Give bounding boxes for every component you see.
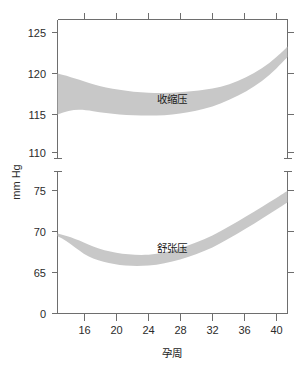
x-axis-title: 孕周 bbox=[162, 347, 182, 359]
diastolic-ytick-70: 70 bbox=[34, 226, 46, 238]
xtick-20: 20 bbox=[110, 324, 122, 336]
chart-background bbox=[0, 0, 308, 367]
blood-pressure-chart: 125 120 115 110 收缩压 bbox=[0, 0, 308, 367]
xtick-16: 16 bbox=[78, 324, 90, 336]
diastolic-ytick-75: 75 bbox=[34, 185, 46, 197]
y-axis-title: mm Hg bbox=[10, 164, 22, 199]
systolic-ytick-120: 120 bbox=[28, 68, 46, 80]
xtick-28: 28 bbox=[174, 324, 186, 336]
xtick-32: 32 bbox=[206, 324, 218, 336]
systolic-ytick-115: 115 bbox=[28, 109, 46, 121]
xtick-40: 40 bbox=[270, 324, 282, 336]
diastolic-ytick-65: 65 bbox=[34, 267, 46, 279]
diastolic-band-label: 舒张压 bbox=[157, 242, 188, 254]
systolic-band-label: 收缩压 bbox=[157, 93, 188, 105]
xtick-36: 36 bbox=[238, 324, 250, 336]
xtick-24: 24 bbox=[142, 324, 154, 336]
diastolic-ytick-0: 0 bbox=[40, 308, 46, 320]
systolic-ytick-125: 125 bbox=[28, 27, 46, 39]
chart-svg: 125 120 115 110 收缩压 bbox=[0, 0, 308, 367]
systolic-ytick-110: 110 bbox=[28, 147, 46, 159]
